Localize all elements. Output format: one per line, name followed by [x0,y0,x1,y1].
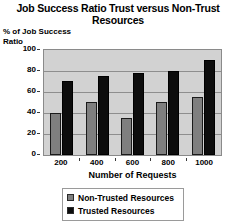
y-axis-tick-label: 60 [27,86,36,95]
y-axis-tick-mark [37,91,40,92]
y-axis-tick-mark [37,133,40,134]
bar [168,71,179,155]
bar-group [150,50,185,155]
y-axis-tick-label: 40 [27,107,36,116]
x-axis-label: Number of Requests [43,170,222,180]
bar [192,97,203,155]
bar [121,118,132,155]
bar-group [115,50,150,155]
y-axis-label-line-1: % of Job Success [3,27,98,37]
legend-label: Trusted Resources [78,206,155,216]
y-axis-tick-mark [37,154,40,155]
legend-item: Trusted Resources [67,204,179,217]
legend-swatch [67,207,74,214]
x-axis-tick-mark [79,158,80,161]
y-axis-tick-label: 0 [32,149,36,158]
y-axis-tick-label: 100 [23,44,36,53]
x-axis-tick-mark [150,158,151,161]
plot-area [43,49,222,156]
y-axis-tick-mark [37,70,40,71]
y-axis-ticks: 100806040200 [16,43,40,162]
bar [204,60,215,155]
chart-legend: Non-Trusted ResourcesTrusted Resources [62,188,184,221]
y-axis-tick-mark [37,49,40,50]
bar-group [186,50,221,155]
bar [86,102,97,155]
legend-label: Non-Trusted Resources [78,193,174,203]
bar-group [79,50,114,155]
x-axis-tick-mark [115,158,116,161]
y-axis-tick-label: 20 [27,128,36,137]
bar [133,73,144,155]
bar [62,81,73,155]
x-axis-tick-mark [186,158,187,161]
legend-swatch [67,194,74,201]
bar [98,76,109,155]
bars-layer [44,50,221,155]
chart-title: Job Success Ratio Trust versus Non-Trust… [8,2,228,26]
chart-figure: Job Success Ratio Trust versus Non-Trust… [0,0,236,224]
y-axis-tick-mark [37,112,40,113]
bar-group [44,50,79,155]
bar [50,113,61,155]
bar [156,102,167,155]
y-axis-tick-label: 80 [27,65,36,74]
legend-item: Non-Trusted Resources [67,191,179,204]
